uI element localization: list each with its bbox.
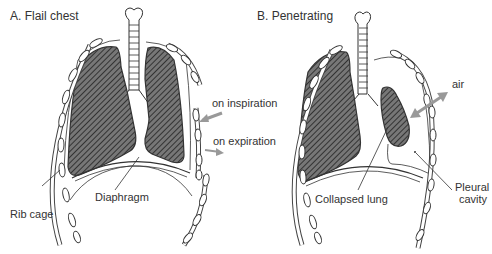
expiration-arrow — [205, 148, 224, 156]
label-air: air — [452, 78, 464, 90]
panel-b-title: B. Penetrating — [257, 10, 333, 22]
panel-b-penetrating — [294, 12, 452, 248]
panel-a-flail-chest — [42, 8, 224, 245]
rib-cage-right-lower-a — [182, 174, 210, 245]
label-collapsed-lung: Collapsed lung — [315, 193, 388, 205]
right-lung-a — [145, 47, 184, 162]
panel-a-title: A. Flail chest — [10, 10, 79, 22]
label-on-expiration: on expiration — [213, 135, 276, 147]
label-on-inspiration: on inspiration — [212, 97, 277, 109]
chest-injury-diagram: A. Flail chest on inspiration on expirat… — [0, 0, 492, 254]
flail-segment — [192, 108, 202, 180]
label-diaphragm: Diaphragm — [95, 191, 149, 203]
diagram-canvas — [0, 0, 492, 254]
collapsed-lung — [381, 87, 409, 146]
label-pleural: Pleural — [455, 181, 489, 193]
label-cavity: cavity — [459, 193, 487, 205]
collapsed-lung-leader — [358, 127, 388, 190]
label-rib-cage: Rib cage — [10, 208, 53, 220]
inspiration-arrow — [199, 113, 222, 122]
